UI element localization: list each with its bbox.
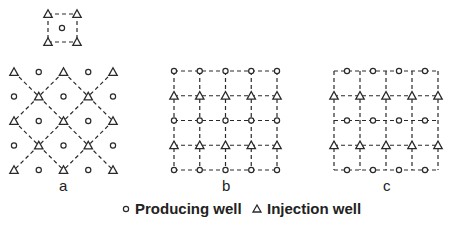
producing-well-icon [86,118,91,123]
injection-well-icon [59,68,67,76]
injection-well-icon [73,38,81,46]
producing-well-icon [422,118,427,123]
legend-producing-label: Producing well [135,200,242,217]
producing-well-icon [171,118,176,123]
pattern-b-line-drive [170,68,281,172]
producing-well-icon [274,68,279,73]
producing-well-icon [197,167,202,172]
producing-well-icon [249,167,254,172]
injection-well-icon [10,68,18,76]
producing-well-icon [171,167,176,172]
producing-well-icon [344,167,349,172]
injection-well-icon [73,10,81,18]
producing-well-icon [422,167,427,172]
producing-well-icon [249,68,254,73]
producing-well-icon [61,94,66,99]
injection-well-legend-icon [253,205,261,212]
producing-well-icon [344,118,349,123]
producing-well-icon [36,69,41,74]
producing-well-icon [249,118,254,123]
injection-well-icon [221,92,229,100]
injection-well-icon [221,141,229,149]
producing-well-icon [422,68,427,73]
producing-well-icon [59,25,64,30]
panel-label-c: c [383,177,391,194]
producing-well-icon [223,118,228,123]
producing-well-icon [86,69,91,74]
producing-well-icon [370,167,375,172]
producing-well-icon [370,68,375,73]
panel-label-b: b [222,177,230,194]
producing-well-icon [61,143,66,148]
producing-well-icon [396,68,401,73]
producing-well-icon [110,143,115,148]
producing-well-icon [274,118,279,123]
producing-well-icon [36,118,41,123]
producing-well-icon [396,118,401,123]
producing-well-icon [171,68,176,73]
producing-well-icon [396,167,401,172]
pattern-a-diagonal [10,68,117,174]
producing-well-icon [197,68,202,73]
producing-well-icon [370,118,375,123]
producing-well-icon [11,94,16,99]
producing-well-icon [197,118,202,123]
panel-label-a: a [59,177,67,194]
pattern-c-staggered-line-drive [330,68,442,172]
producing-well-legend-icon [123,206,128,211]
five-spot-inset [44,10,81,46]
producing-well-icon [223,68,228,73]
producing-well-icon [344,68,349,73]
producing-well-icon [223,167,228,172]
producing-well-icon [86,167,91,172]
producing-well-icon [274,167,279,172]
producing-well-icon [36,167,41,172]
legend-injection-label: Injection well [267,200,361,217]
producing-well-icon [110,94,115,99]
producing-well-icon [11,143,16,148]
injection-well-icon [109,68,117,76]
